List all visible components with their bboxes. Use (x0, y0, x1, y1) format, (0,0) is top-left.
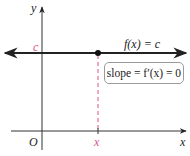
x-axis-label: x (180, 136, 185, 148)
y-axis-label: y (31, 2, 36, 14)
point-x-label: x (94, 136, 99, 148)
point-on-curve (95, 50, 101, 56)
origin-label: O (29, 136, 38, 148)
function-label: f(x) = c (124, 38, 160, 50)
constant-c-label: c (33, 41, 38, 53)
slope-box: slope = f′(x) = 0 (104, 62, 184, 84)
